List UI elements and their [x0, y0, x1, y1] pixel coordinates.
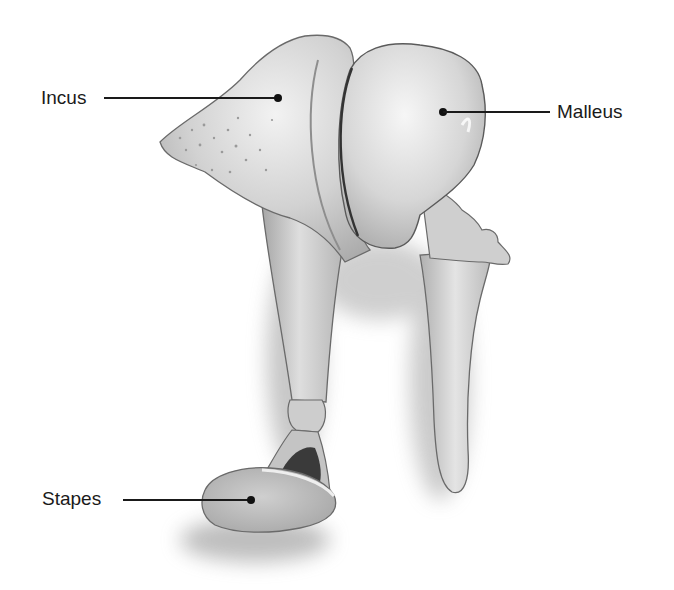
leader-line-incus — [104, 97, 276, 99]
leader-line-malleus — [443, 111, 550, 113]
pointer-dot-incus — [274, 94, 282, 102]
label-malleus: Malleus — [557, 102, 622, 121]
leader-line-stapes — [123, 499, 249, 501]
stapes-head — [288, 400, 325, 432]
label-incus: Incus — [41, 88, 86, 107]
pointer-dot-stapes — [247, 496, 255, 504]
label-stapes: Stapes — [42, 489, 101, 508]
